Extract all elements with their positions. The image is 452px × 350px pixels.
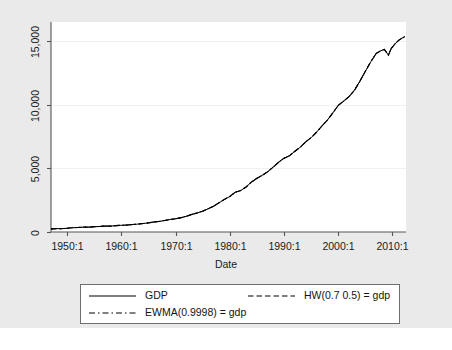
- x-axis-tick-label: 1970:1: [160, 240, 192, 252]
- y-axis-tick-label: 15,000: [29, 25, 41, 57]
- x-axis-tick-label: 1980:1: [214, 240, 246, 252]
- y-axis-tick-label: 10,000: [29, 89, 41, 121]
- legend-label-gdp: GDP: [145, 289, 168, 301]
- y-axis-ticks: [47, 42, 51, 233]
- x-axis-tick-label: 1990:1: [268, 240, 300, 252]
- legend-label-hw: HW(0.7 0.5) = gdp: [304, 289, 390, 301]
- x-axis-tick-label: 2000:1: [322, 240, 354, 252]
- x-axis-tick-label: 1950:1: [51, 240, 83, 252]
- x-axis-title: Date: [215, 258, 237, 270]
- legend: GDP EWMA(0.9998) = gdp HW(0.7 0.5) = gdp: [80, 284, 400, 324]
- gdp-chart: 05,00010,00015,000 1950:11960:11970:1198…: [0, 0, 452, 350]
- y-axis-tick-label: 5,000: [29, 155, 41, 181]
- x-axis-tick-label: 2010:1: [376, 240, 408, 252]
- x-axis-tick-label: 1960:1: [105, 240, 137, 252]
- legend-label-ewma: EWMA(0.9998) = gdp: [145, 306, 246, 318]
- plot-background: [51, 22, 406, 232]
- y-axis-tick-label: 0: [29, 230, 41, 236]
- x-axis-ticks: [68, 232, 393, 236]
